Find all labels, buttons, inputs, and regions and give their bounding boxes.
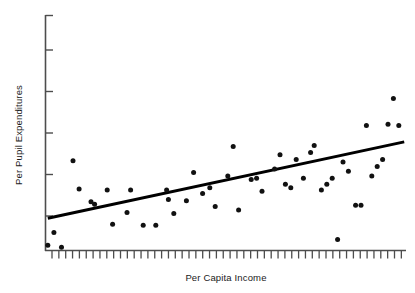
data-point [231,144,236,149]
data-point [369,173,374,178]
plot-canvas: Per Capita Income Per Pupil Expenditures [0,0,415,293]
data-point [301,176,306,181]
data-point [346,169,351,174]
data-point [200,191,205,196]
data-point [254,176,259,181]
data-point [375,164,380,169]
data-point [225,173,230,178]
data-point [308,150,313,155]
data-point [249,177,254,182]
data-point [77,186,82,191]
data-point [191,170,196,175]
y-axis-label: Per Pupil Expenditures [13,85,24,185]
data-point [319,188,324,193]
data-point [213,204,218,209]
data-point [166,197,171,202]
data-point [312,143,317,148]
data-point [51,230,56,235]
data-point [164,188,169,193]
data-point [260,189,265,194]
data-point [364,123,369,128]
data-point [207,185,212,190]
data-point [105,188,110,193]
data-point [335,237,340,242]
data-point [341,159,346,164]
data-point [236,208,241,213]
data-point [153,223,158,228]
data-point [380,157,385,162]
data-point [278,152,283,157]
data-point [71,158,76,163]
data-point [272,166,277,171]
data-point [359,203,364,208]
data-point [324,182,329,187]
data-point [391,96,396,101]
data-point [92,202,97,207]
data-point [59,245,64,250]
x-axis-label: Per Capita Income [185,272,266,283]
data-point [288,185,293,190]
data-point [294,157,299,162]
data-point [171,211,176,216]
data-point [283,182,288,187]
data-point [184,198,189,203]
data-point [110,222,115,227]
data-point [353,203,358,208]
data-point [45,243,50,248]
scatter-plot-figure: Per Capita Income Per Pupil Expenditures [0,0,415,293]
data-point [125,210,130,215]
data-point [141,223,146,228]
data-point [396,123,401,128]
data-point [386,122,391,127]
data-point [128,188,133,193]
data-point [330,176,335,181]
